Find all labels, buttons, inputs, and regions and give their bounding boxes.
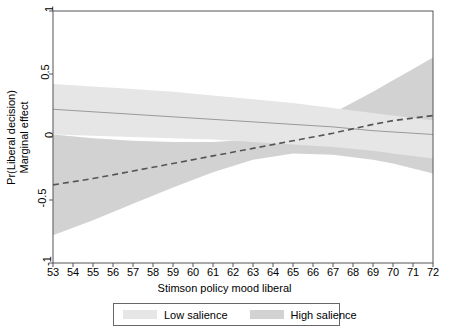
- x-tick-label: 71: [407, 266, 419, 278]
- x-tick-label: 60: [187, 266, 199, 278]
- x-tick-label: 58: [147, 266, 159, 278]
- x-tick-label: 61: [207, 266, 219, 278]
- x-tick-label: 72: [427, 266, 439, 278]
- x-tick-label: 66: [307, 266, 319, 278]
- x-axis-tick-labels: 5354555657585960616263646566676869707172: [0, 266, 449, 282]
- legend-swatch-high-salience: [250, 310, 284, 319]
- legend-label-low-salience: Low salience: [164, 309, 228, 321]
- legend-item-high-salience: High salience: [250, 304, 367, 325]
- x-tick-label: 55: [87, 266, 99, 278]
- x-tick-label: 57: [127, 266, 139, 278]
- legend-label-high-salience: High salience: [291, 309, 357, 321]
- chart-figure: Pr(Liberal decision) Marginal effect -1-…: [0, 0, 449, 331]
- x-tick-label: 56: [107, 266, 119, 278]
- x-tick-label: 62: [227, 266, 239, 278]
- x-tick-label: 63: [247, 266, 259, 278]
- x-tick-label: 70: [387, 266, 399, 278]
- x-tick-label: 53: [47, 266, 59, 278]
- legend-swatch-low-salience: [123, 310, 157, 319]
- x-tick-label: 59: [167, 266, 179, 278]
- x-tick-label: 69: [367, 266, 379, 278]
- x-tick-label: 67: [327, 266, 339, 278]
- legend-item-low-salience: Low salience: [123, 304, 238, 325]
- legend: Low salience High salience: [113, 303, 340, 326]
- plot-area: [0, 0, 449, 290]
- x-axis-title: Stimson policy mood liberal: [0, 282, 449, 294]
- x-tick-label: 54: [67, 266, 79, 278]
- x-tick-label: 68: [347, 266, 359, 278]
- x-tick-label: 65: [287, 266, 299, 278]
- x-tick-label: 64: [267, 266, 279, 278]
